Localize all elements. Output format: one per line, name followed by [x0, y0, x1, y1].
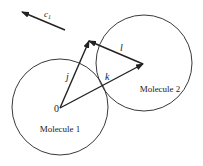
- molecular-collision-diagram: 0 j k l c1 Molecule 1 Molecule 2: [0, 0, 203, 166]
- molecule-2-circle: [96, 15, 192, 111]
- vector-j-arrow: [60, 41, 89, 108]
- velocity-c1-label: c1: [44, 9, 51, 20]
- origin-label: 0: [54, 103, 59, 114]
- vector-k-arrow: [60, 64, 143, 108]
- molecule-2-label: Molecule 2: [140, 84, 181, 94]
- velocity-subscript: 1: [48, 14, 51, 20]
- vector-l-label: l: [120, 42, 123, 53]
- vector-j-label: j: [64, 71, 69, 82]
- molecule-1-label: Molecule 1: [40, 124, 81, 134]
- vector-k-label: k: [105, 71, 110, 82]
